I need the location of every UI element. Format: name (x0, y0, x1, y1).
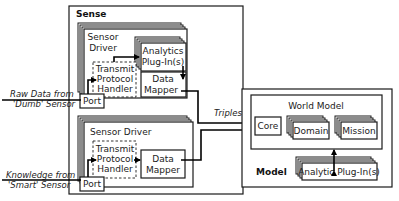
transmit2-line1: Transmit (95, 144, 135, 154)
architecture-diagram: Sense Sensor Driver Analytics Plug-In(s)… (0, 0, 399, 201)
raw-data-line1: Raw Data from (10, 89, 74, 99)
driver1-title-line2: Driver (89, 43, 117, 53)
port1-label: Port (83, 96, 101, 106)
analytics-line2: Plug-In(s) (142, 57, 185, 67)
domain-label: Domain (294, 126, 329, 136)
input-raw-data: Raw Data from 'Dumb' Sensor (2, 89, 81, 109)
transmit2-line3: Handler (97, 164, 133, 174)
transmit2-line2: Protocol (97, 154, 133, 164)
domain-box: Domain (287, 116, 329, 139)
analytic-plugins-label: Analytic Plug-In(s) (298, 167, 380, 177)
driver1-title-line1: Sensor (88, 32, 119, 42)
mapper2-line1: Data (152, 154, 174, 164)
core-label: Core (258, 121, 279, 131)
knowledge-line1: Knowledge from (6, 170, 75, 180)
transmit-protocol-handler-1: Transmit Protocol Handler (93, 62, 136, 97)
sensor-driver-1: Sensor Driver Analytics Plug-In(s) Trans… (78, 23, 187, 108)
mapper1-line1: Data (152, 74, 174, 84)
model-title: Model (256, 167, 287, 177)
triples-label: Triples (214, 108, 242, 118)
data-mapper-2: Data Mapper (141, 150, 185, 178)
sense-title: Sense (76, 9, 106, 19)
knowledge-line2: 'Smart' Sensor (8, 180, 71, 190)
sensor-driver-2: Sensor Driver Transmit Protocol Handler … (78, 116, 193, 191)
input-knowledge: Knowledge from 'Smart' Sensor (2, 170, 81, 190)
data-mapper-1: Data Mapper (141, 72, 186, 97)
transmit1-line3: Handler (97, 84, 133, 94)
port-1: Port (80, 94, 104, 108)
port2-label: Port (83, 179, 101, 189)
mapper1-line2: Mapper (144, 85, 178, 95)
core-box: Core (255, 117, 281, 135)
analytic-plugins-box: Analytic Plug-In(s) (296, 157, 380, 180)
mapper2-line2: Mapper (146, 165, 180, 175)
world-model: World Model Core Domain Mission (251, 95, 382, 149)
analytics-plugins-box: Analytics Plug-In(s) (135, 37, 186, 71)
driver2-title: Sensor Driver (90, 127, 152, 137)
transmit1-line2: Protocol (97, 74, 133, 84)
analytics-line1: Analytics (143, 46, 184, 56)
mission-label: Mission (342, 126, 375, 136)
port-2: Port (80, 177, 104, 191)
mission-box: Mission (335, 116, 377, 139)
transmit1-line1: Transmit (95, 64, 135, 74)
world-model-title: World Model (288, 101, 344, 111)
transmit-protocol-handler-2: Transmit Protocol Handler (93, 141, 136, 178)
model-container: Model World Model Core Domain Mis (242, 89, 392, 187)
